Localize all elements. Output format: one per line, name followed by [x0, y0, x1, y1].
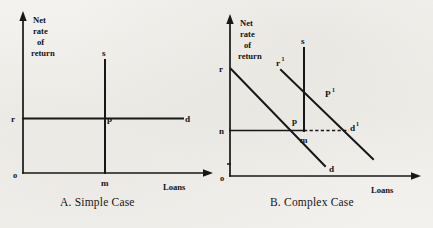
panel-b-shifted-equilibrium-label: P 1 [325, 87, 335, 99]
panel-a-origin-label: o [13, 171, 17, 180]
figure-root: Net rate of return Loans o r m s d p [0, 0, 433, 228]
panel-a-equilibrium-label: p [107, 114, 112, 124]
panel-a-x-tick-label-m: m [101, 178, 109, 188]
panel-a-caption: A. Simple Case [60, 196, 135, 208]
panel-a-y-axis-arrowhead [19, 11, 26, 21]
panel-b-supply-label: s [301, 36, 305, 46]
panel-b-demand-curve [231, 69, 325, 166]
panel-b-y-axis-arrowhead [226, 14, 233, 24]
panel-b-x-axis-arrowhead [411, 172, 421, 179]
panel-b-y-tick-label-n: n [219, 126, 224, 136]
panel-a-x-axis-label: Loans [163, 182, 186, 192]
panel-a: Net rate of return Loans o r m s d p [11, 11, 213, 192]
panel-a-x-axis-arrowhead [203, 169, 213, 176]
svg-text:P: P [325, 89, 331, 99]
figure-svg: Net rate of return Loans o r m s d p [0, 0, 433, 228]
panel-b-y-axis-label-line-3: of [244, 40, 251, 50]
panel-b-x-axis-label: Loans [371, 185, 394, 195]
panel-b-shifted-demand-start-label: r 1 [276, 56, 285, 68]
panel-b-shifted-demand-curve [281, 70, 373, 159]
panel-a-demand-label: d [185, 114, 190, 124]
panel-a-y-axis-label-line-1: Net [33, 15, 46, 25]
panel-b-shifted-demand-end-label: d 1 [350, 121, 359, 133]
panel-b-y-tick-label-r: r [219, 64, 223, 74]
panel-b-caption: B. Complex Case [270, 196, 354, 208]
panel-b-y-axis-label-line-1: Net [240, 18, 253, 28]
panel-a-y-axis-label-line-4: return [31, 48, 55, 58]
panel-a-y-axis-label-line-2: rate [33, 26, 48, 36]
svg-text:1: 1 [282, 56, 285, 62]
panel-b-origin-label: o [220, 174, 224, 183]
panel-a-y-tick-label-r: r [11, 114, 15, 124]
svg-text:1: 1 [356, 121, 359, 127]
panel-b: Net rate of return Loans o r n m s d r 1… [219, 14, 421, 195]
panel-b-x-tick-label-m: m [300, 135, 308, 145]
svg-text:d: d [350, 123, 355, 133]
panel-b-demand-label: d [329, 164, 334, 174]
panel-b-equilibrium-label: p [292, 116, 297, 126]
panel-b-y-axis-label-line-2: rate [240, 29, 255, 39]
panel-a-y-axis-label-line-3: of [37, 37, 44, 47]
panel-b-y-axis-label-line-4: return [238, 51, 262, 61]
svg-text:1: 1 [332, 87, 335, 93]
panel-a-supply-label: s [102, 48, 106, 58]
svg-text:r: r [276, 58, 280, 68]
